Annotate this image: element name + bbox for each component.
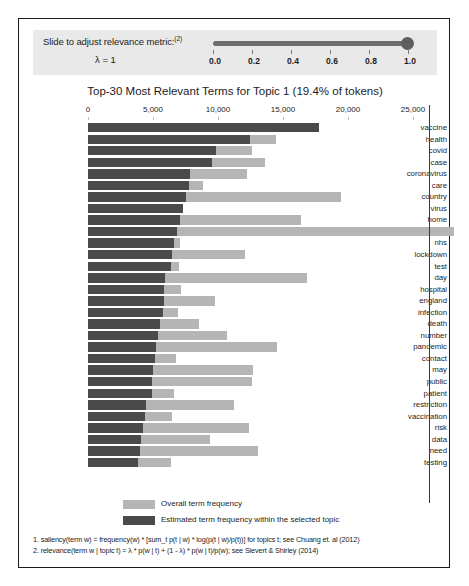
bar-row[interactable]: day xyxy=(19,272,451,284)
term-label-data[interactable]: data xyxy=(387,434,451,446)
term-label-vaccination[interactable]: vaccination xyxy=(387,411,451,423)
bar-row[interactable]: hospital xyxy=(19,284,451,296)
term-label-infection[interactable]: infection xyxy=(387,307,451,319)
topic-frequency-bar[interactable] xyxy=(88,192,186,201)
term-label-nhs[interactable]: nhs xyxy=(387,237,451,249)
plot-right-border xyxy=(429,105,430,503)
term-label-death[interactable]: death xyxy=(387,318,451,330)
topic-frequency-bar[interactable] xyxy=(88,285,164,294)
topic-frequency-bar[interactable] xyxy=(88,342,156,351)
lambda-value-label: λ = 1 xyxy=(95,54,116,65)
topic-frequency-bar[interactable] xyxy=(88,123,319,132)
bar-row[interactable]: coronavirus xyxy=(19,168,451,180)
term-label-restriction[interactable]: restriction xyxy=(387,399,451,411)
bar-row[interactable]: number xyxy=(19,330,451,342)
term-label-need[interactable]: need xyxy=(387,445,451,457)
bar-row[interactable]: testing xyxy=(19,457,451,469)
term-label-virus[interactable]: virus xyxy=(387,203,451,215)
relevance-slider-strip[interactable]: Slide to adjust relevance metric:(2) λ =… xyxy=(33,30,437,75)
slider-track[interactable] xyxy=(213,41,409,46)
topic-frequency-bar[interactable] xyxy=(88,146,216,155)
term-label-pandemic[interactable]: pandemic xyxy=(387,341,451,353)
term-label-may[interactable]: may xyxy=(387,364,451,376)
bar-row[interactable]: country xyxy=(19,191,451,203)
topic-frequency-bar[interactable] xyxy=(88,273,165,282)
term-label-case[interactable]: case xyxy=(387,157,451,169)
topic-frequency-bar[interactable] xyxy=(88,354,155,363)
bar-row[interactable]: covid xyxy=(19,145,451,157)
bar-row[interactable]: public xyxy=(19,376,451,388)
term-label-hospital[interactable]: hospital xyxy=(387,284,451,296)
topic-frequency-bar[interactable] xyxy=(88,365,153,374)
slider-tick-label-3: 0.6 xyxy=(326,56,338,66)
bar-row[interactable]: vaccination xyxy=(19,411,451,423)
footnotes: 1. saliency(term w) = frequency(w) * [su… xyxy=(33,534,443,556)
term-label-covid[interactable]: covid xyxy=(387,145,451,157)
bar-row[interactable]: risk xyxy=(19,422,451,434)
topic-frequency-bar[interactable] xyxy=(88,308,163,317)
term-label-care[interactable]: care xyxy=(387,180,451,192)
topic-frequency-bar[interactable] xyxy=(88,319,160,328)
topic-frequency-bar[interactable] xyxy=(88,158,212,167)
topic-frequency-bar[interactable] xyxy=(88,135,250,144)
bar-row[interactable]: care xyxy=(19,180,451,192)
term-label-test[interactable]: test xyxy=(387,261,451,273)
bar-row[interactable]: uk xyxy=(19,226,451,238)
topic-frequency-bar[interactable] xyxy=(88,412,145,421)
bar-row[interactable]: may xyxy=(19,364,451,376)
term-label-home[interactable]: home xyxy=(387,214,451,226)
topic-frequency-bar[interactable] xyxy=(88,458,138,467)
bar-row[interactable]: pandemic xyxy=(19,341,451,353)
bar-row[interactable]: restriction xyxy=(19,399,451,411)
slider-handle[interactable] xyxy=(401,37,414,50)
topic-frequency-bar[interactable] xyxy=(88,238,174,247)
topic-frequency-bar[interactable] xyxy=(88,296,164,305)
bar-row[interactable]: virus xyxy=(19,203,451,215)
topic-frequency-bar[interactable] xyxy=(88,204,183,213)
footnote-2: 2. relevance(term w | topic t) = λ * p(w… xyxy=(33,545,443,556)
bar-row[interactable]: case xyxy=(19,157,451,169)
topic-frequency-bar[interactable] xyxy=(88,169,190,178)
bar-row[interactable]: nhs xyxy=(19,237,451,249)
topic-frequency-bar[interactable] xyxy=(88,331,158,340)
topic-frequency-bar[interactable] xyxy=(88,423,143,432)
relevance-slider[interactable]: 0.0 0.2 0.4 0.6 0.8 1.0 xyxy=(211,34,425,72)
term-label-lockdown[interactable]: lockdown xyxy=(387,249,451,261)
bar-row[interactable]: need xyxy=(19,445,451,457)
term-label-number[interactable]: number xyxy=(387,330,451,342)
topic-frequency-bar[interactable] xyxy=(88,435,141,444)
term-label-testing[interactable]: testing xyxy=(387,457,451,469)
term-label-health[interactable]: health xyxy=(387,134,451,146)
term-label-patient[interactable]: patient xyxy=(387,388,451,400)
term-label-country[interactable]: country xyxy=(387,191,451,203)
slider-tick-label-0: 0.0 xyxy=(209,56,221,66)
bar-row[interactable]: test xyxy=(19,261,451,273)
topic-frequency-bar[interactable] xyxy=(88,227,177,236)
bar-row[interactable]: lockdown xyxy=(19,249,451,261)
term-label-england[interactable]: england xyxy=(387,295,451,307)
term-label-coronavirus[interactable]: coronavirus xyxy=(387,168,451,180)
bar-row[interactable]: data xyxy=(19,434,451,446)
term-label-day[interactable]: day xyxy=(387,272,451,284)
term-label-contact[interactable]: contact xyxy=(387,353,451,365)
topic-frequency-bar[interactable] xyxy=(88,215,180,224)
bar-row[interactable]: england xyxy=(19,295,451,307)
bar-row[interactable]: patient xyxy=(19,388,451,400)
topic-frequency-bar[interactable] xyxy=(88,400,146,409)
bar-row[interactable]: death xyxy=(19,318,451,330)
bar-row[interactable]: contact xyxy=(19,353,451,365)
topic-frequency-bar[interactable] xyxy=(88,446,140,455)
topic-frequency-bar[interactable] xyxy=(88,389,152,398)
topic-frequency-bar[interactable] xyxy=(88,181,189,190)
term-label-public[interactable]: public xyxy=(387,376,451,388)
bar-row[interactable]: home xyxy=(19,214,451,226)
topic-frequency-bar[interactable] xyxy=(88,262,171,271)
topic-frequency-bar[interactable] xyxy=(88,377,152,386)
bar-row[interactable]: health xyxy=(19,134,451,146)
term-label-risk[interactable]: risk xyxy=(387,422,451,434)
legend-swatch-light xyxy=(123,500,155,509)
topic-frequency-bar[interactable] xyxy=(88,250,172,259)
bar-row[interactable]: vaccine xyxy=(19,122,451,134)
bar-row[interactable]: infection xyxy=(19,307,451,319)
term-label-vaccine[interactable]: vaccine xyxy=(387,122,451,134)
